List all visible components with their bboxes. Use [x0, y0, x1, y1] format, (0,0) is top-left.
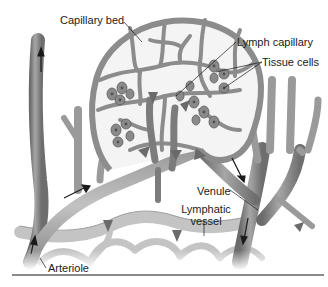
label-lymphatic-vessel-line1: Lymphatic [178, 203, 234, 215]
bottom-divider [12, 274, 324, 276]
flow-arrow-icon [172, 230, 182, 242]
label-venule: Venule [197, 185, 231, 197]
label-arteriole: Arteriole [48, 262, 89, 274]
flow-arrow-icon [294, 222, 304, 232]
label-lymphatic-vessel-line2: vessel [178, 215, 234, 227]
label-capillary-bed: Capillary bed [60, 14, 124, 26]
label-lymph-capillary: Lymph capillary [237, 36, 313, 48]
label-lymphatic-vessel: Lymphatic vessel [178, 203, 234, 227]
label-tissue-cells: Tissue cells [262, 56, 319, 68]
venule [240, 150, 262, 262]
